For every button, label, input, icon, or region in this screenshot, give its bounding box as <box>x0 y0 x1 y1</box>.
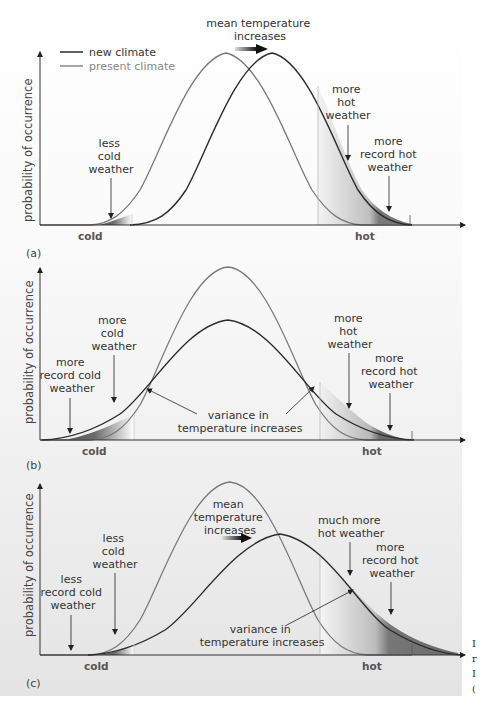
legend: new climate present climate <box>60 46 175 73</box>
new-climate-curve <box>130 53 412 225</box>
annotation-mean-temperature: mean temperature increases <box>206 17 313 43</box>
annotation-variance: variance in temperature increases <box>178 409 303 435</box>
cold-shading <box>62 414 134 440</box>
annotation-much-more-hot: much more hot weather <box>318 514 385 540</box>
mean-shift-arrow <box>222 536 242 540</box>
annotation-less-cold: less cold weather <box>92 532 138 571</box>
caption-fragment: ( <box>472 683 476 694</box>
y-axis-label: probability of occurrence <box>21 79 35 223</box>
pointer-arrow <box>286 387 314 414</box>
annotation-more-hot: more hot weather <box>325 83 371 122</box>
panel-c: probability of occurrence cold hot (c) l… <box>22 482 465 690</box>
panel-label: (b) <box>26 459 42 472</box>
annotation-more-record-hot: more record hot weather <box>361 352 421 391</box>
caption-fragment: I <box>472 638 476 649</box>
x-tick-cold: cold <box>78 230 103 242</box>
legend-new-label: new climate <box>89 46 156 59</box>
annotation-less-cold: less cold weather <box>88 137 134 176</box>
climate-distribution-figure: new climate present climate probability … <box>0 0 490 704</box>
x-tick-hot: hot <box>362 445 382 457</box>
x-tick-hot: hot <box>362 660 382 672</box>
panel-b: probability of occurrence cold hot (b) m… <box>22 267 465 472</box>
annotation-more-record-hot: more record hot weather <box>362 541 422 580</box>
annotation-variance: variance in temperature increases <box>200 623 325 649</box>
x-tick-hot: hot <box>355 230 375 242</box>
y-axis-label: probability of occurrence <box>22 281 36 425</box>
y-axis-label: probability of occurrence <box>22 494 36 638</box>
annotation-less-record-cold: less record cold weather <box>41 573 106 612</box>
annotation-more-hot: more hot weather <box>327 312 373 351</box>
panel-a: new climate present climate probability … <box>21 17 465 260</box>
annotation-mean-temperature: mean temperature increases <box>194 498 267 537</box>
panel-label: (c) <box>26 677 41 690</box>
annotation-more-cold: more cold weather <box>91 314 137 353</box>
caption-fragment: r <box>472 653 477 664</box>
mean-shift-arrow <box>235 47 257 51</box>
annotation-more-record-cold: more record cold weather <box>40 356 105 395</box>
mean-shift-arrowhead <box>256 44 268 54</box>
caption-fragment: I <box>472 668 476 679</box>
panel-label: (a) <box>26 247 41 260</box>
x-tick-cold: cold <box>82 445 107 457</box>
x-tick-cold: cold <box>84 660 109 672</box>
legend-present-label: present climate <box>89 60 175 73</box>
pointer-arrow <box>147 389 197 414</box>
annotation-more-record-hot: more record hot weather <box>360 135 420 174</box>
